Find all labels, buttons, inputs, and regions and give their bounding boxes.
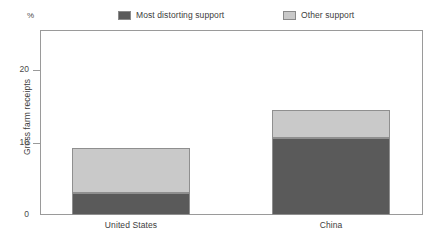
bar-segment-other-support: [72, 148, 190, 194]
bar-group: [72, 148, 190, 215]
x-axis-tick-label: United States: [72, 220, 190, 230]
bar-segment-other-support: [272, 110, 390, 137]
bar-segment-most-distorting-support: [272, 138, 390, 215]
bars-layer: [0, 0, 429, 236]
bar-segment-most-distorting-support: [72, 193, 190, 215]
bar-group: [272, 110, 390, 215]
stacked-bar-chart: Most distorting support Other support % …: [0, 0, 429, 236]
x-axis-tick-label: China: [272, 220, 390, 230]
